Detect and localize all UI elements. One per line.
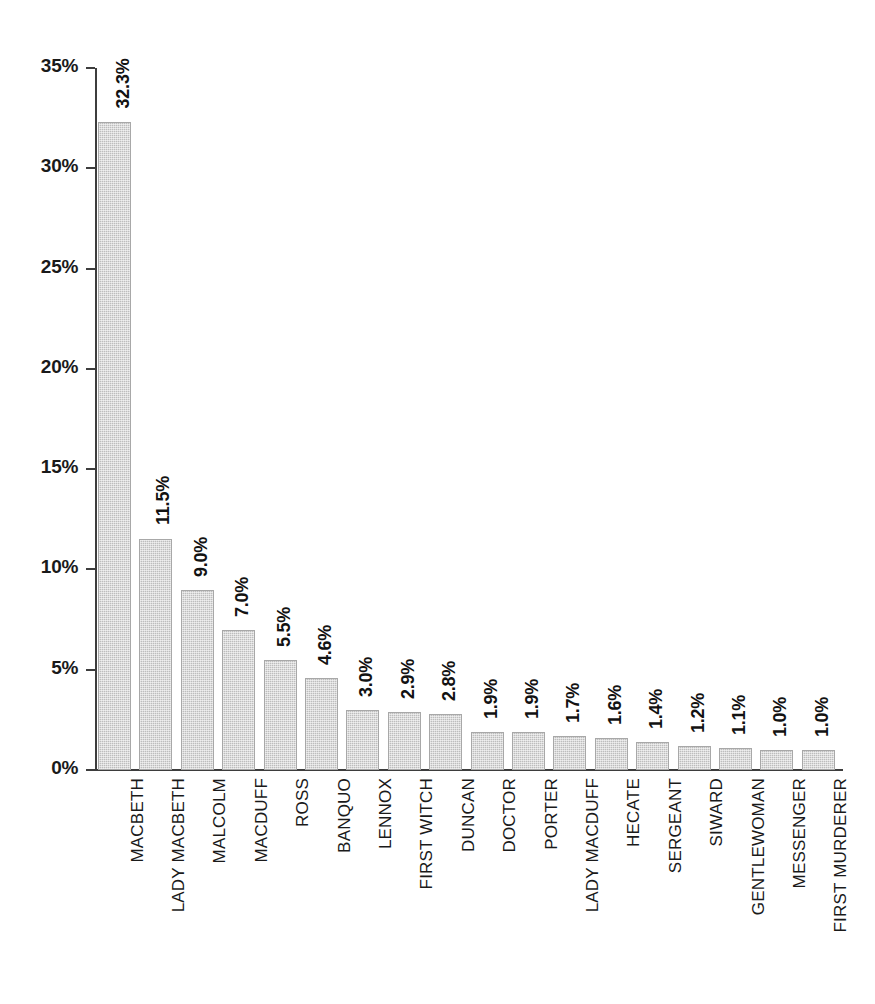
- x-axis-category-label: MACDUFF: [242, 694, 262, 779]
- bar-group[interactable]: 1.4%: [635, 68, 676, 770]
- y-axis-tick-mark: [86, 769, 95, 771]
- y-axis-tick-label: 10%: [41, 556, 78, 578]
- bar-value-label: 7.0%: [222, 570, 255, 624]
- x-axis-category-slot: MESSENGER: [759, 778, 800, 1004]
- x-axis-category-slot: SERGEANT: [635, 778, 676, 1004]
- y-axis-tick-mark: [86, 167, 95, 169]
- y-axis-tick-mark: [86, 669, 95, 671]
- x-axis-category-labels: MACBETHLADY MACBETHMALCOLMMACDUFFROSSBAN…: [97, 778, 843, 1004]
- bar-value-label: 11.5%: [139, 468, 172, 533]
- x-axis-category-label: PORTER: [532, 706, 552, 778]
- x-axis-category-slot: MACBETH: [97, 778, 138, 1004]
- y-axis-tick-label: 30%: [41, 155, 78, 177]
- x-axis-category-label: LADY MACDUFF: [573, 644, 593, 778]
- bar-value-text: 9.0%: [174, 536, 228, 576]
- x-axis-category-slot: DUNCAN: [428, 778, 469, 1004]
- y-axis-tick-label: 5%: [51, 657, 78, 679]
- y-axis-tick-mark: [86, 568, 95, 570]
- bar-value-label: 2.8%: [429, 654, 462, 708]
- y-axis-tick-mark: [86, 468, 95, 470]
- x-axis-category-slot: SIWARD: [677, 778, 718, 1004]
- x-axis-category-label: ROSS: [283, 729, 303, 778]
- x-axis-category-label: SERGEANT: [656, 683, 676, 778]
- x-axis-category-label: FIRST WITCH: [407, 667, 427, 778]
- x-axis-category-slot: HECATE: [594, 778, 635, 1004]
- y-axis-tick-label: 20%: [41, 356, 78, 378]
- x-axis-category-slot: FIRST WITCH: [387, 778, 428, 1004]
- bar-group[interactable]: 32.3%: [97, 68, 138, 770]
- x-axis-category-slot: LADY MACDUFF: [552, 778, 593, 1004]
- bar-value-label: 4.6%: [305, 618, 338, 672]
- bar-group[interactable]: 9.0%: [180, 68, 221, 770]
- bar-value-label: 9.0%: [181, 530, 214, 584]
- bar-value-label: 5.5%: [264, 600, 297, 654]
- x-axis-category-text: FIRST MURDERER: [831, 778, 851, 933]
- x-axis-category-label: LADY MACBETH: [159, 644, 179, 778]
- x-axis-category-label: MESSENGER: [780, 668, 800, 778]
- x-axis-category-label: MALCOLM: [200, 693, 220, 778]
- x-axis-category-label: HECATE: [614, 709, 634, 778]
- y-axis-tick-mark: [86, 368, 95, 370]
- x-axis-category-slot: MACDUFF: [221, 778, 262, 1004]
- y-axis-tick-label: 0%: [51, 757, 78, 779]
- bar-chart: 0%5%10%15%20%25%30%35% 32.3%11.5%9.0%7.0…: [0, 0, 875, 1004]
- x-axis-category-slot: LENNOX: [345, 778, 386, 1004]
- bar-group[interactable]: 1.2%: [677, 68, 718, 770]
- bar-group[interactable]: 1.9%: [470, 68, 511, 770]
- y-axis-tick-mark: [86, 268, 95, 270]
- y-axis-tick-label: 15%: [41, 456, 78, 478]
- x-axis-category-label: DOCTOR: [490, 703, 510, 778]
- x-axis-category-slot: FIRST MURDERER: [801, 778, 842, 1004]
- x-axis-category-slot: MALCOLM: [180, 778, 221, 1004]
- plot-area: 32.3%11.5%9.0%7.0%5.5%4.6%3.0%2.9%2.8%1.…: [97, 68, 843, 770]
- x-axis-category-slot: PORTER: [511, 778, 552, 1004]
- bar-group[interactable]: 1.0%: [759, 68, 800, 770]
- x-axis-category-slot: ROSS: [263, 778, 304, 1004]
- bar-group[interactable]: 1.9%: [511, 68, 552, 770]
- x-axis-category-label: FIRST MURDERER: [821, 623, 841, 778]
- x-axis-category-slot: LADY MACBETH: [138, 778, 179, 1004]
- y-axis-tick-label: 35%: [41, 55, 78, 77]
- x-axis-category-label: GENTLEWOMAN: [739, 641, 759, 778]
- x-axis-category-slot: BANQUO: [304, 778, 345, 1004]
- x-axis-category-slot: DOCTOR: [470, 778, 511, 1004]
- x-axis-category-label: MACBETH: [118, 693, 138, 778]
- x-axis-category-label: BANQUO: [325, 703, 345, 778]
- bar-group[interactable]: 2.8%: [428, 68, 469, 770]
- bar-group[interactable]: 1.6%: [594, 68, 635, 770]
- y-axis-tick-label: 25%: [41, 256, 78, 278]
- bar-value-label: 3.0%: [346, 650, 379, 704]
- x-axis-category-label: DUNCAN: [449, 704, 469, 778]
- x-axis-category-slot: GENTLEWOMAN: [718, 778, 759, 1004]
- x-axis-category-label: LENNOX: [366, 707, 386, 778]
- bar[interactable]: [98, 122, 131, 770]
- x-axis-category-label: SIWARD: [697, 709, 717, 778]
- bar-value-label: 32.3%: [98, 51, 131, 116]
- bar-group[interactable]: 7.0%: [221, 68, 262, 770]
